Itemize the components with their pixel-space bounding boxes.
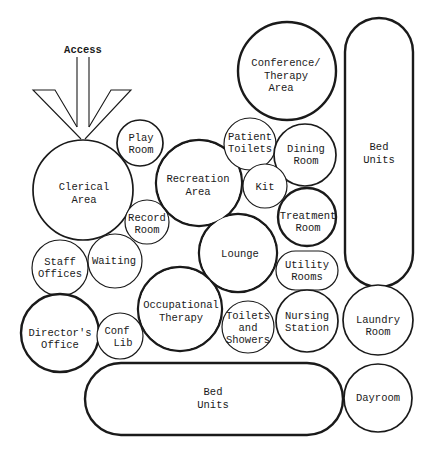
svg-text:Patient: Patient: [228, 131, 272, 143]
svg-text:Room: Room: [295, 222, 320, 234]
room-bed-units-horizontal: Bed Units: [85, 363, 343, 435]
svg-text:Record: Record: [128, 212, 166, 224]
svg-text:Rooms: Rooms: [291, 271, 323, 283]
room-dayroom: Dayroom: [344, 364, 412, 432]
svg-text:Office: Office: [41, 339, 79, 351]
svg-text:Area: Area: [185, 186, 210, 198]
svg-text:Toilets: Toilets: [228, 143, 272, 155]
room-utility-rooms: Utility Rooms: [276, 251, 338, 290]
svg-text:Kit: Kit: [256, 181, 275, 193]
svg-text:Lounge: Lounge: [221, 248, 259, 260]
svg-text:Waiting: Waiting: [92, 255, 136, 267]
svg-text:Dining: Dining: [287, 143, 325, 155]
room-waiting: Waiting: [88, 234, 142, 288]
room-staff-offices: Staff Offices: [32, 240, 88, 296]
bubble-diagram: Access Bed Units Bed Units Conference/ T…: [0, 0, 432, 457]
room-clerical-area: Clerical Area: [33, 140, 133, 240]
room-directors-office: Director's Office: [21, 294, 99, 372]
svg-text:Station: Station: [285, 322, 329, 334]
room-play-room: Play Room: [117, 120, 163, 166]
svg-text:Conf: Conf: [104, 325, 129, 337]
svg-text:and: and: [239, 322, 258, 334]
svg-text:Units: Units: [197, 399, 229, 411]
room-conference-therapy-area: Conference/ Therapy Area: [238, 22, 336, 120]
access-arrow: Access: [33, 44, 131, 139]
svg-text:Conference/: Conference/: [251, 57, 320, 69]
svg-text:Play: Play: [128, 132, 153, 144]
svg-text:Room: Room: [365, 326, 390, 338]
svg-text:Room: Room: [293, 155, 318, 167]
svg-text:Clerical: Clerical: [59, 181, 109, 193]
svg-text:Recreation: Recreation: [166, 173, 229, 185]
room-kit: Kit: [243, 164, 287, 208]
room-laundry-room: Laundry Room: [343, 285, 413, 355]
access-label: Access: [64, 44, 102, 56]
svg-text:Occupational: Occupational: [143, 299, 219, 311]
svg-text:Area: Area: [71, 194, 96, 206]
svg-text:Bed: Bed: [370, 141, 389, 153]
room-treatment-room: Treatment Room: [278, 188, 336, 246]
room-bed-units-vertical: Bed Units: [345, 18, 413, 287]
svg-text:Therapy: Therapy: [264, 70, 308, 82]
svg-text:Treatment: Treatment: [280, 210, 337, 222]
svg-text:Toilets: Toilets: [226, 310, 270, 322]
svg-text:Showers: Showers: [226, 334, 270, 346]
room-toilets-and-showers: Toilets and Showers: [222, 301, 274, 353]
svg-text:Nursing: Nursing: [285, 310, 329, 322]
svg-text:Lib: Lib: [114, 337, 133, 349]
room-patient-toilets: Patient Toilets: [224, 118, 276, 170]
svg-text:Offices: Offices: [38, 268, 82, 280]
svg-text:Units: Units: [363, 154, 395, 166]
svg-text:Room: Room: [134, 224, 159, 236]
svg-text:Area: Area: [268, 82, 293, 94]
svg-text:Staff: Staff: [44, 256, 76, 268]
svg-text:Therapy: Therapy: [159, 312, 203, 324]
svg-text:Utility: Utility: [285, 259, 329, 271]
svg-text:Laundry: Laundry: [356, 314, 400, 326]
svg-text:Director's: Director's: [28, 327, 91, 339]
room-nursing-station: Nursing Station: [276, 290, 338, 352]
room-lounge: Lounge: [221, 248, 259, 260]
room-conf-lib: Conf Lib: [97, 313, 143, 359]
svg-text:Bed: Bed: [204, 386, 223, 398]
svg-text:Room: Room: [128, 144, 153, 156]
svg-text:Dayroom: Dayroom: [356, 392, 400, 404]
